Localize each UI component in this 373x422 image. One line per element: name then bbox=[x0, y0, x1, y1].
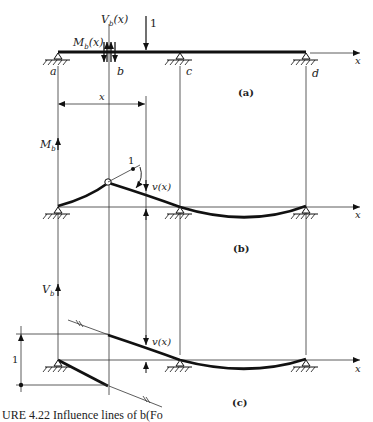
rotation-line bbox=[108, 165, 140, 182]
moment-il-right bbox=[109, 183, 306, 217]
rotation-dot-icon bbox=[131, 167, 135, 171]
deflection-label-b: v(x) bbox=[152, 181, 171, 192]
point-d-label: d bbox=[312, 67, 319, 80]
support-d-icon bbox=[291, 53, 318, 65]
vb-axis-label: Vb bbox=[42, 283, 55, 298]
moment-label: Mb(x) bbox=[72, 36, 104, 51]
mb-axis-label: Mb bbox=[39, 138, 56, 153]
x-dimension-label: x bbox=[99, 91, 105, 102]
deflection-label-c: v(x) bbox=[152, 336, 171, 347]
jump-arrow-icon bbox=[18, 334, 24, 341]
moment-il-left bbox=[58, 183, 108, 206]
unit-jump-label: 1 bbox=[12, 354, 18, 365]
shear-label: Vb(x) bbox=[101, 13, 128, 28]
panel-b: x Mb 1 v(x) (b) bbox=[39, 138, 361, 254]
panel-a-label: (a) bbox=[238, 87, 254, 98]
support-a-icon-b bbox=[43, 207, 70, 219]
panel-a: x Vb(x) Mb(x) 1 a b c d (a) x bbox=[43, 13, 361, 104]
panel-c: x Vb 1 v(x) (c) bbox=[12, 283, 361, 408]
point-a-label: a bbox=[50, 65, 57, 78]
panel-b-label: (b) bbox=[233, 243, 249, 254]
x-axis-label-a: x bbox=[355, 55, 361, 66]
rotation-arc-icon bbox=[136, 167, 141, 188]
x-axis-label-b: x bbox=[355, 209, 361, 220]
jump-dot-icon bbox=[19, 383, 23, 387]
unit-rotation-label: 1 bbox=[128, 155, 134, 166]
support-c-icon bbox=[165, 53, 192, 65]
figure-caption: URE 4.22 Influence lines of b(Fo bbox=[2, 408, 163, 422]
support-a-icon bbox=[43, 53, 70, 65]
unit-load-label: 1 bbox=[150, 17, 157, 30]
shear-il-left bbox=[58, 360, 108, 386]
x-axis-label-c: x bbox=[355, 363, 361, 374]
panel-c-label: (c) bbox=[232, 397, 248, 408]
influence-line-diagram: x Vb(x) Mb(x) 1 a b c d (a) x x Mb bbox=[0, 0, 373, 422]
point-b-label: b bbox=[117, 65, 124, 78]
upper-extension bbox=[68, 320, 109, 335]
point-c-label: c bbox=[186, 65, 192, 78]
shear-il-right bbox=[108, 335, 306, 369]
support-a-icon-c bbox=[43, 360, 70, 372]
lower-extension bbox=[109, 386, 162, 407]
